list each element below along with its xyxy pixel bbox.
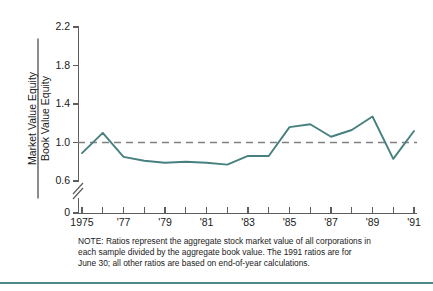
x-tick-label-1979: '79 [145,216,185,228]
bottom-spacer [0,284,433,291]
x-tick-label-1987: '87 [311,216,351,228]
x-tick-label-1989: '89 [353,216,393,228]
y-tick-label-1.4: 1.4 [44,97,70,109]
x-tick-label-1991: '91 [394,216,433,228]
chart-figure: Market Value Equity Book Value Equity 00… [0,0,433,291]
chart-note-line-2: each sample divided by the aggregate boo… [78,247,408,258]
chart-note-line-3: June 30; all other ratios are based on e… [78,258,408,269]
y-tick-label-0.6: 0.6 [44,174,70,186]
data-series-line [82,117,414,165]
y-tick-label-1.0: 1.0 [44,136,70,148]
x-tick-label-1985: '85 [270,216,310,228]
chart-note-line-1: NOTE: Ratios represent the aggregate sto… [78,236,408,247]
x-tick-label-1977: '77 [104,216,144,228]
x-tick-label-1981: '81 [187,216,227,228]
x-tick-label-1983: '83 [228,216,268,228]
y-tick-label-1.8: 1.8 [44,59,70,71]
x-tick-label-1975: 1975 [62,216,102,228]
data-line-svg [78,27,417,214]
plot-area [78,27,417,214]
y-axis-title-numerator: Market Value Equity [26,39,38,199]
y-tick-label-2.2: 2.2 [44,20,70,32]
chart-note: NOTE: Ratios represent the aggregate sto… [78,236,408,270]
